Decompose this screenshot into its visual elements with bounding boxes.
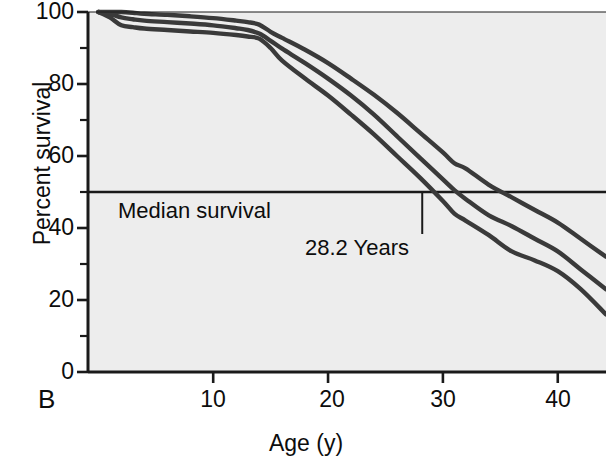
y-tick-label-20: 20 [20, 288, 74, 311]
median-survival-label: Median survival [118, 200, 271, 222]
median-value-annotation: 28.2 Years [305, 237, 409, 259]
x-tick-label-10: 10 [183, 388, 243, 411]
x-tick-label-40: 40 [528, 388, 588, 411]
y-tick-label-40: 40 [20, 216, 74, 239]
survival-chart-figure: Percent survival 100 80 60 40 20 0 10 20… [0, 0, 606, 467]
x-tick-label-20: 20 [302, 388, 362, 411]
y-tick-label-60: 60 [20, 144, 74, 167]
y-tick-label-0: 0 [20, 360, 74, 383]
x-axis-title: Age (y) [269, 432, 343, 455]
y-tick-label-100: 100 [20, 0, 74, 23]
x-tick-label-30: 30 [413, 388, 473, 411]
y-tick-label-80: 80 [20, 72, 74, 95]
panel-label: B [38, 386, 55, 412]
